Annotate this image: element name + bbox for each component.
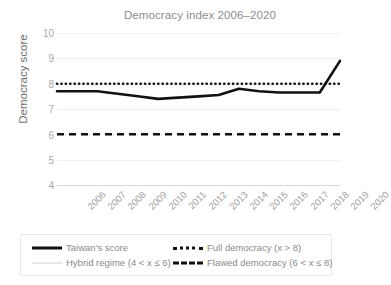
x-tick-2013: 2013 [227,189,250,212]
legend-item-full-democracy[interactable]: Full democracy (x > 8) [173,240,301,255]
x-tick-2018: 2018 [328,189,351,212]
thin-line-swatch-icon [32,258,62,268]
y-tick-6: 6 [28,130,54,141]
series-line-taiwan [57,61,340,99]
chart-legend: Taiwan's score Full democracy (x > 8) Hy… [20,234,332,276]
x-tick-2012: 2012 [206,189,229,212]
y-tick-7: 7 [28,104,54,115]
x-tick-2015: 2015 [267,189,290,212]
y-tick-4: 4 [28,180,54,191]
plot-area: 2006 2007 2008 2009 2010 2011 2012 2013 … [57,33,340,185]
legend-item-taiwan-score[interactable]: Taiwan's score [32,240,128,255]
y-tick-10: 10 [28,28,54,39]
y-tick-5: 5 [28,155,54,166]
x-tick-2009: 2009 [146,189,169,212]
legend-label-flawed-democracy: Flawed democracy (6 < x ≤ 8) [207,257,332,268]
legend-label-taiwan-score: Taiwan's score [66,242,128,253]
x-tick-2019: 2019 [348,189,371,212]
chart-title: Democracy index 2006–2020 [60,9,340,21]
dashed-line-swatch-icon [173,258,203,268]
solid-line-swatch-icon [32,243,62,253]
x-tick-2007: 2007 [105,189,128,212]
x-tick-2010: 2010 [166,189,189,212]
legend-row-1: Taiwan's score Full democracy (x > 8) [21,240,333,255]
y-tick-8: 8 [28,79,54,90]
legend-label-hybrid-regime: Hybrid regime (4 < x ≤ 6) [66,257,171,268]
x-axis-line [57,185,340,186]
y-tick-9: 9 [28,53,54,64]
legend-row-2: Hybrid regime (4 < x ≤ 6) Flawed democra… [21,255,333,270]
x-tick-2011: 2011 [186,189,208,211]
x-tick-2006: 2006 [85,189,108,212]
x-tick-2014: 2014 [247,189,270,212]
series-svg [57,33,340,185]
legend-item-flawed-democracy[interactable]: Flawed democracy (6 < x ≤ 8) [173,255,332,270]
legend-label-full-democracy: Full democracy (x > 8) [207,242,301,253]
x-tick-2016: 2016 [287,189,310,212]
x-tick-2017: 2017 [308,189,331,212]
x-tick-2020: 2020 [368,189,391,212]
dotted-line-swatch-icon [173,243,203,253]
x-tick-2008: 2008 [125,189,148,212]
legend-item-hybrid-regime[interactable]: Hybrid regime (4 < x ≤ 6) [32,255,171,270]
chart-card: Democracy index 2006–2020 Democracy scor… [0,0,352,232]
